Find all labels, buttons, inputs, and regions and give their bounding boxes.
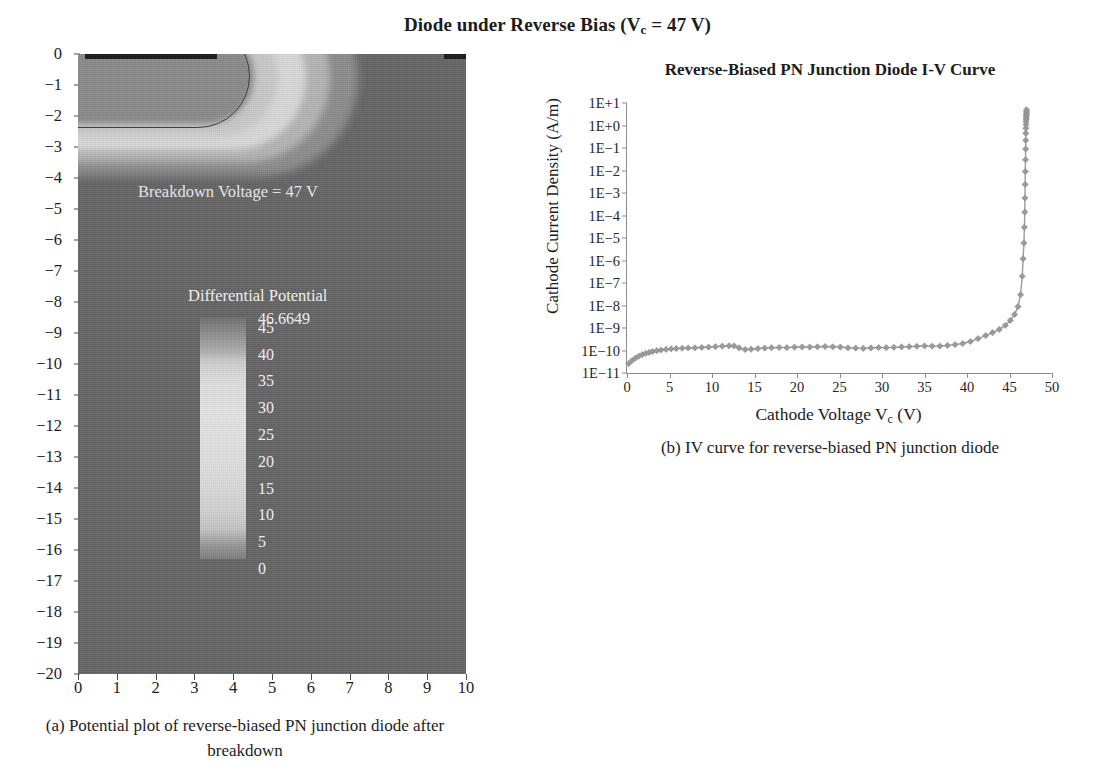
iv-x-tick-mark [712,373,713,378]
iv-y-tick-label: 1E−1 [588,141,620,156]
panel-a-y-tick-label: −1 [44,77,62,94]
legend-tick-labels: 46.6649454035302520151050 [258,311,398,561]
iv-data-marker [898,344,904,350]
iv-data-marker [1019,273,1025,279]
panel-a-x-tick-mark [388,674,389,680]
panel-a-x-tick-label: 8 [384,680,392,697]
iv-data-marker [944,342,950,348]
panel-a-x-tick-mark [78,674,79,680]
panel-a-x-tick-label: 2 [151,680,159,697]
iv-x-tick-label: 50 [1045,380,1060,395]
iv-y-tick-mark [622,350,627,351]
panel-a-x-tick-label: 3 [190,680,198,697]
legend-tick-label: 10 [258,507,274,523]
iv-data-marker [673,345,679,351]
iv-data-marker [1023,146,1029,152]
iv-x-tick-mark [797,373,798,378]
iv-data-marker [706,344,712,350]
iv-x-tick-label: 35 [917,380,932,395]
iv-data-marker [1022,195,1028,201]
legend-tick-label: 15 [258,481,274,497]
iv-data-marker [929,343,935,349]
legend-body: 46.6649454035302520151050 [200,311,410,561]
depletion-band-mid [78,54,330,162]
iv-data-marker [712,344,718,350]
panel-a-y-tick-label: −2 [44,108,62,125]
panel-a-x-tick-label: 10 [458,680,475,697]
iv-x-tick-mark [840,373,841,378]
iv-x-tick-label: 45 [1002,380,1017,395]
iv-data-marker [768,345,774,351]
panel-a-x-tick-label: 4 [229,680,237,697]
iv-y-tick-label: 1E−10 [581,343,620,358]
legend-tick-label: 20 [258,454,274,470]
iv-data-marker [799,344,805,350]
iv-x-tick-label: 25 [832,380,847,395]
iv-x-tick-label: 20 [790,380,805,395]
iv-data-marker [853,345,859,351]
depletion-band-outer [78,54,358,176]
legend-tick-label: 40 [258,347,274,363]
iv-x-tick-label: 10 [705,380,720,395]
iv-y-tick-mark [622,328,627,329]
panel-a-y-tick-label: −6 [44,232,62,249]
x-axis-label-tail: (V) [893,404,922,424]
iv-data-marker [762,345,768,351]
iv-y-tick-label: 1E−9 [588,321,620,336]
iv-y-tick-mark [622,148,627,149]
figure-title: Diode under Reverse Bias (Vc = 47 V) [0,14,1115,38]
panel-a-y-tick-label: −18 [36,604,62,621]
iv-data-marker [814,344,820,350]
iv-x-tick-mark [627,373,628,378]
chart-title: Reverse-Biased PN Junction Diode I-V Cur… [560,60,1100,80]
legend-tick-label: 25 [258,427,274,443]
iv-data-marker [784,345,790,351]
iv-data-marker [975,335,981,341]
panel-a-y-tick-label: −17 [36,573,62,590]
panel-a-y-tick-label: −15 [36,511,62,528]
iv-data-marker [1021,224,1027,230]
potential-colorbar-legend: Differential Potential 46.66494540353025… [200,286,410,561]
iv-data-marker [699,344,705,350]
iv-data-marker [830,344,836,350]
figure-title-tail: = 47 V) [646,14,711,35]
potential-field-image: Breakdown Voltage = 47 V Differential Po… [78,54,466,674]
x-axis-label: Cathode Voltage Vc (V) [626,404,1051,427]
panel-a-y-tick-label: −14 [36,480,62,497]
iv-data-marker [1021,240,1027,246]
iv-data-marker [883,345,889,351]
iv-data-marker [658,347,664,353]
iv-data-marker [960,340,966,346]
iv-y-tick-label: 1E−6 [588,253,620,268]
iv-curve-svg [627,103,1052,373]
panel-a-x-tick-mark [194,674,195,680]
iv-data-marker [921,343,927,349]
iv-data-marker [791,344,797,350]
depletion-band-inner [78,54,254,124]
panel-a-x-tick-mark [233,674,234,680]
panel-a-y-tick-label: −11 [37,387,62,404]
breakdown-voltage-annotation: Breakdown Voltage = 47 V [138,182,318,202]
iv-x-tick-label: 0 [623,380,630,395]
iv-y-tick-label: 1E−8 [588,298,620,313]
iv-y-tick-mark [622,260,627,261]
panel-a-y-axis: 0−1−2−3−4−5−6−7−8−9−10−11−12−13−14−15−16… [0,54,70,674]
anode-contact-electrode [85,54,217,59]
iv-y-tick-mark [622,103,627,104]
iv-data-marker [742,346,748,352]
panel-a-x-tick-mark [117,674,118,680]
iv-y-tick-mark [622,305,627,306]
panel-a-plot-area: Breakdown Voltage = 47 V Differential Po… [78,54,466,674]
iv-data-marker [679,345,685,351]
panel-a-x-tick-label: 9 [423,680,431,697]
iv-x-tick-label: 30 [875,380,890,395]
panel-a-y-tick-label: −5 [44,201,62,218]
panel-a-x-tick-mark [272,674,273,680]
iv-data-marker [1022,168,1028,174]
iv-data-marker [1017,292,1023,298]
panel-a-y-tick-label: −9 [44,325,62,342]
iv-x-tick-label: 15 [747,380,762,395]
figure-title-main: Diode under Reverse Bias (V [404,14,641,35]
iv-data-marker [1020,256,1026,262]
iv-data-marker [692,345,698,351]
